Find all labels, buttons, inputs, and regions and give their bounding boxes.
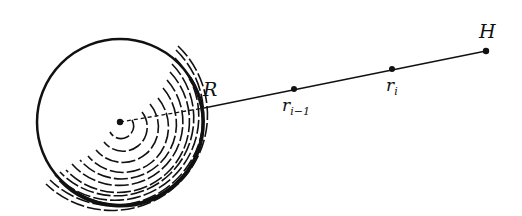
label-R: R [203, 80, 217, 99]
label-H: H [479, 22, 496, 41]
point-H [483, 48, 489, 54]
point-r-i [389, 66, 395, 72]
sphere-line-figure [0, 0, 522, 216]
diagram-canvas: R ri−1 ri H [0, 0, 522, 216]
label-r-i: ri [386, 77, 398, 97]
label-r-i-sub: i [394, 85, 398, 98]
label-r-prev: ri−1 [282, 97, 310, 117]
label-r-i-base: r [386, 75, 394, 95]
label-r-prev-sub: i−1 [290, 105, 310, 118]
sphere [37, 39, 207, 210]
label-r-prev-base: r [282, 95, 290, 115]
point-r-prev [291, 86, 297, 92]
ray-line [204, 51, 486, 108]
